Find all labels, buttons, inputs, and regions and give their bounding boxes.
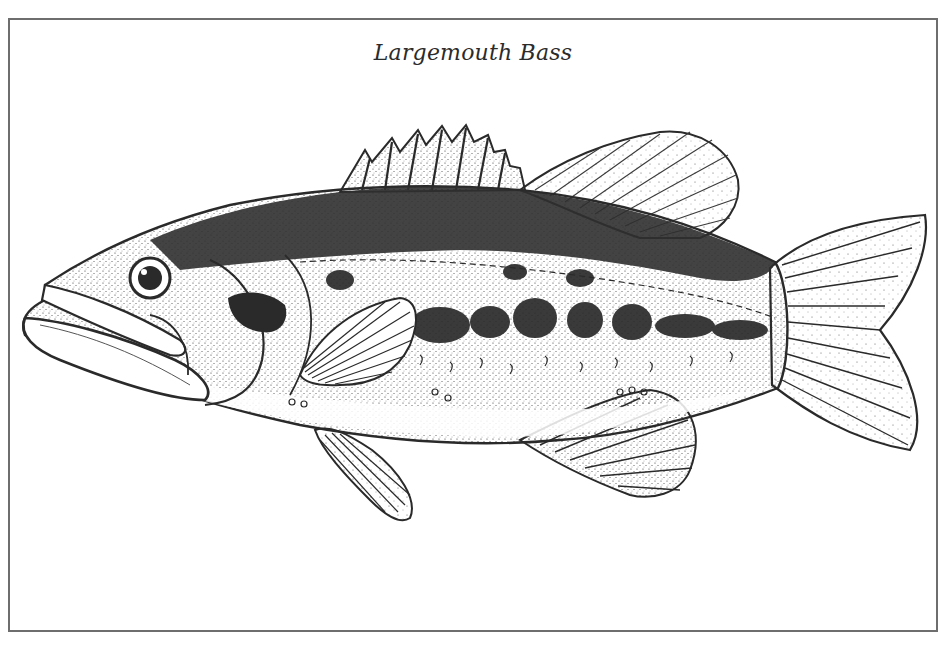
pelvic-fin (315, 428, 412, 520)
spiny-dorsal-fin (340, 125, 525, 192)
fish-eye (130, 258, 170, 298)
largemouth-bass-illustration (0, 0, 950, 648)
caudal-fin (770, 215, 926, 450)
